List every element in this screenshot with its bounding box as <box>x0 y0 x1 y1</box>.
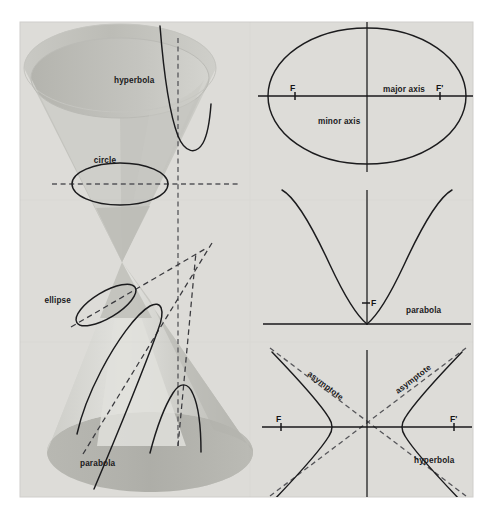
parabola-label-focus: F <box>371 298 376 308</box>
cone-label-hyperbola: hyperbola <box>114 76 155 85</box>
conic-sections-figure: hyperbola circle ellipse parabola F F' m… <box>0 0 500 518</box>
ellipse-label-minor-axis: minor axis <box>318 117 361 126</box>
ellipse-label-focus-right: F' <box>436 83 443 93</box>
hyperbola-label-curve: hyperbola <box>414 456 455 465</box>
cone-label-ellipse: ellipse <box>44 296 71 305</box>
cone-label-parabola: parabola <box>80 459 116 468</box>
ellipse-label-focus-left: F <box>290 83 295 93</box>
parabola-label-curve: parabola <box>406 306 442 315</box>
ellipse-label-major-axis: major axis <box>383 85 425 94</box>
figure-canvas: hyperbola circle ellipse parabola F F' m… <box>0 0 500 518</box>
hyperbola-label-focus-right: F' <box>450 414 457 424</box>
hyperbola-label-focus-left: F <box>276 414 281 424</box>
cone-label-circle: circle <box>94 156 117 165</box>
